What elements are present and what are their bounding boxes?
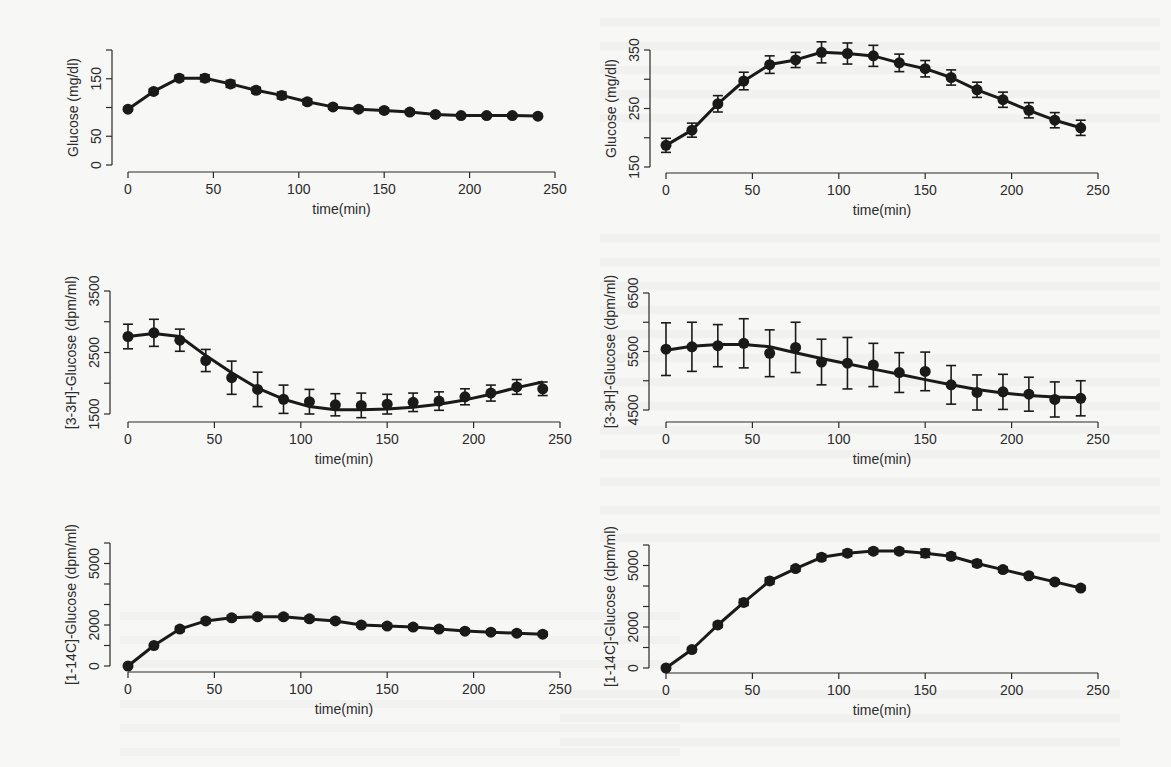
- x-tick-label: 50: [745, 182, 761, 198]
- x-axis-title: time(min): [315, 451, 373, 467]
- data-point: [148, 86, 159, 97]
- x-tick-label: 0: [124, 681, 132, 697]
- y-axis-title: [3-3H]-Glucose (dpm/ml): [63, 276, 79, 429]
- x-tick-label: 0: [662, 182, 670, 198]
- data-point: [485, 388, 496, 399]
- data-point: [330, 615, 341, 626]
- data-point: [1023, 389, 1034, 400]
- chart-panel-glucose-right: 150250350Glucose (mg/dl)050100150200250t…: [603, 38, 1110, 218]
- data-point: [304, 613, 315, 624]
- y-tick-label: 5000: [86, 548, 102, 579]
- data-point: [123, 331, 134, 342]
- data-point: [511, 628, 522, 639]
- y-axis-title: [3-3H]-Glucose (dpm/ml): [602, 275, 618, 428]
- data-point: [997, 94, 1008, 105]
- data-point: [1023, 105, 1034, 116]
- data-point: [353, 104, 364, 115]
- data-point: [790, 342, 801, 353]
- data-point: [252, 384, 263, 395]
- y-axis-title: Glucose (mg/dl): [603, 59, 619, 158]
- x-tick-label: 100: [289, 681, 313, 697]
- y-tick-label: 6500: [625, 277, 641, 308]
- x-tick-label: 250: [548, 431, 572, 447]
- data-point: [511, 381, 522, 392]
- data-points: [123, 319, 549, 417]
- data-point: [226, 612, 237, 623]
- data-point: [946, 72, 957, 83]
- y-tick-label: 2500: [86, 337, 102, 368]
- data-point: [661, 344, 672, 355]
- data-point: [738, 597, 749, 608]
- x-tick-label: 100: [827, 182, 851, 198]
- data-point: [123, 104, 134, 115]
- data-point: [382, 399, 393, 410]
- y-tick-label: 0: [625, 664, 641, 672]
- data-point: [661, 140, 672, 151]
- data-point: [920, 366, 931, 377]
- x-axis: 050100150200250time(min): [124, 172, 567, 217]
- data-point: [199, 73, 210, 84]
- data-point: [327, 101, 338, 112]
- x-axis: 050100150200250time(min): [662, 173, 1110, 218]
- data-point: [1075, 583, 1086, 594]
- data-point: [816, 47, 827, 58]
- data-point: [430, 109, 441, 120]
- chart-panel-3h-glucose-right: 450055006500[3-3H]-Glucose (dpm/ml)05010…: [602, 275, 1110, 467]
- y-tick-label: 0: [88, 161, 104, 169]
- data-point: [174, 73, 185, 84]
- data-point: [712, 98, 723, 109]
- data-point: [868, 359, 879, 370]
- x-tick-label: 250: [543, 181, 567, 197]
- x-axis-title: time(min): [853, 451, 911, 467]
- x-tick-label: 50: [206, 181, 222, 197]
- x-tick-label: 200: [462, 681, 486, 697]
- data-point: [894, 367, 905, 378]
- x-tick-label: 250: [548, 681, 572, 697]
- y-axis: 150025003500[3-3H]-Glucose (dpm/ml): [63, 275, 110, 429]
- data-point: [972, 84, 983, 95]
- data-point: [379, 105, 390, 116]
- data-point: [894, 546, 905, 557]
- x-tick-label: 200: [462, 431, 486, 447]
- data-point: [252, 611, 263, 622]
- data-point: [920, 63, 931, 74]
- data-point: [946, 551, 957, 562]
- data-point: [661, 663, 672, 674]
- data-point: [738, 338, 749, 349]
- data-point: [842, 358, 853, 369]
- y-tick-label: 2000: [86, 609, 102, 640]
- x-axis-title: time(min): [312, 201, 370, 217]
- data-point: [304, 396, 315, 407]
- data-point: [790, 54, 801, 65]
- data-point: [302, 96, 313, 107]
- data-point: [459, 391, 470, 402]
- data-point: [148, 327, 159, 338]
- x-tick-label: 150: [373, 181, 397, 197]
- data-point: [148, 640, 159, 651]
- x-tick-label: 50: [207, 431, 223, 447]
- data-point: [894, 57, 905, 68]
- data-curve: [666, 551, 1081, 668]
- x-tick-label: 150: [914, 431, 938, 447]
- data-point: [485, 627, 496, 638]
- data-point: [459, 626, 470, 637]
- y-tick-label: 350: [626, 38, 642, 62]
- x-tick-label: 0: [662, 431, 670, 447]
- data-point: [1075, 393, 1086, 404]
- data-point: [434, 396, 445, 407]
- x-tick-label: 0: [124, 181, 132, 197]
- data-point: [972, 387, 983, 398]
- x-tick-label: 150: [376, 681, 400, 697]
- y-tick-label: 250: [626, 97, 642, 121]
- data-point: [200, 355, 211, 366]
- data-point: [481, 110, 492, 121]
- data-point: [356, 400, 367, 411]
- chart-panel-14c-glucose-left: 020005000[1-14C]-Glucose (dpm/ml)0501001…: [63, 524, 572, 717]
- data-point: [408, 622, 419, 633]
- x-tick-label: 50: [745, 682, 761, 698]
- y-axis: 050150Glucose (mg/dl): [65, 50, 112, 169]
- data-point: [507, 110, 518, 121]
- x-tick-label: 50: [207, 681, 223, 697]
- x-tick-label: 0: [662, 682, 670, 698]
- data-point: [842, 48, 853, 59]
